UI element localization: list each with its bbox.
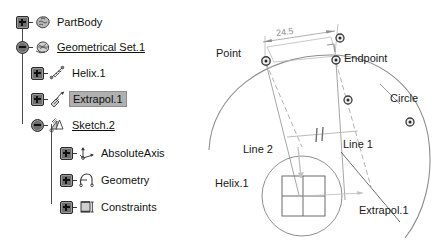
expand-toggle-icon[interactable] [31, 93, 44, 106]
expand-toggle-icon[interactable] [16, 16, 29, 29]
tree-item-constraints[interactable]: Constraints [60, 196, 157, 218]
tree-item-label: AbsoluteAxis [101, 147, 165, 159]
tree-stub [29, 47, 33, 48]
tree-stub [29, 22, 33, 23]
point-label: Point [216, 47, 241, 59]
helix-label: Helix.1 [215, 177, 249, 189]
tree-item-sketch[interactable]: Sketch.2 [31, 114, 115, 136]
tree-item-label: Sketch.2 [72, 119, 115, 131]
dimension-label: 24.5 [275, 25, 294, 39]
tree-item-label: Extrapol.1 [70, 92, 126, 106]
line2-label: Line 2 [243, 143, 273, 155]
collapse-toggle-icon[interactable] [31, 119, 44, 132]
geometrical-set-icon [34, 38, 52, 56]
sketch-diagram[interactable]: 24.5 Point Endpoint Circle Line 1 Line 2… [195, 0, 433, 243]
expand-toggle-icon[interactable] [60, 147, 73, 160]
sketch-icon [49, 116, 67, 134]
collapse-toggle-icon[interactable] [16, 41, 29, 54]
tree-item-label: Helix.1 [72, 67, 106, 79]
expand-toggle-icon[interactable] [31, 67, 44, 80]
circle-label: Circle [390, 92, 418, 104]
tree-item-geometrical-set[interactable]: Geometrical Set.1 [16, 36, 145, 58]
tree-item-partbody[interactable]: PartBody [16, 11, 102, 33]
geometry-icon [78, 171, 96, 189]
tree-connector-sketch [51, 124, 52, 204]
tree-item-label: Geometry [101, 174, 149, 186]
specification-tree[interactable]: PartBody Geometrical Set.1 [0, 0, 205, 243]
partbody-icon [34, 13, 52, 31]
helix-icon [49, 64, 67, 82]
tree-item-helix[interactable]: Helix.1 [31, 62, 106, 84]
tree-stub [73, 207, 77, 208]
tree-stub [44, 73, 48, 74]
expand-toggle-icon[interactable] [60, 174, 73, 187]
expand-toggle-icon[interactable] [60, 201, 73, 214]
constraints-icon [78, 198, 96, 216]
tree-stub [73, 153, 77, 154]
tree-item-label: Geometrical Set.1 [57, 41, 145, 53]
tree-item-extrapol[interactable]: Extrapol.1 [31, 88, 126, 110]
tree-stub [44, 125, 48, 126]
absolute-axis-icon [78, 144, 96, 162]
endpoint-label: Endpoint [344, 52, 387, 64]
line1-label: Line 1 [343, 138, 373, 150]
tree-stub [44, 99, 48, 100]
tree-item-label: Constraints [101, 201, 157, 213]
tree-item-geometry[interactable]: Geometry [60, 169, 149, 191]
tree-stub [73, 180, 77, 181]
extrapol-icon [49, 90, 67, 108]
tree-item-label: PartBody [57, 16, 102, 28]
extrapol-label: Extrapol.1 [359, 204, 409, 216]
tree-item-absoluteaxis[interactable]: AbsoluteAxis [60, 142, 165, 164]
